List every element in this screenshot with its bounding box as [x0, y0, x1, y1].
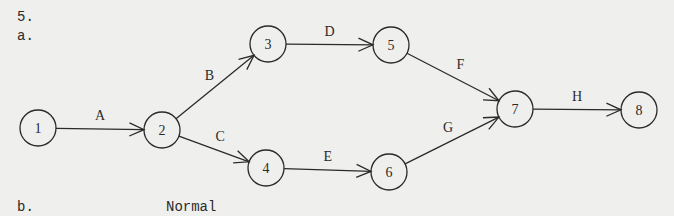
edge-line	[179, 136, 249, 162]
node-6: 6	[371, 154, 407, 190]
node-label: 7	[512, 102, 519, 117]
node-label: 4	[263, 161, 270, 176]
nodes-layer: 12345678	[20, 26, 657, 190]
node-8: 8	[621, 92, 657, 128]
activity-network-diagram: ABCDEFGH 12345678	[0, 0, 674, 216]
node-label: 2	[159, 123, 166, 138]
edge-line	[56, 128, 144, 129]
node-label: 6	[386, 165, 393, 180]
node-label: 1	[35, 121, 42, 136]
activity-label: A	[95, 108, 106, 123]
edge-line	[286, 44, 373, 45]
node-7: 7	[497, 91, 533, 127]
node-3: 3	[250, 26, 286, 62]
node-1: 1	[20, 110, 56, 146]
activity-label: H	[572, 89, 582, 104]
edge-f: F	[407, 53, 499, 100]
edge-h: H	[533, 89, 621, 117]
edge-line	[407, 53, 499, 100]
activity-label: E	[324, 149, 333, 164]
edge-c: C	[179, 129, 249, 163]
node-label: 5	[388, 38, 395, 53]
activity-label: G	[443, 120, 453, 135]
activity-label: B	[205, 68, 214, 83]
edge-line	[284, 169, 371, 172]
edge-b: B	[176, 55, 254, 118]
activity-label: F	[457, 57, 465, 72]
edge-g: G	[405, 117, 499, 164]
edge-line	[533, 109, 621, 110]
edge-d: D	[286, 24, 373, 52]
activity-label: C	[215, 129, 224, 144]
node-5: 5	[373, 27, 409, 63]
edge-e: E	[284, 149, 371, 177]
edges-layer: ABCDEFGH	[56, 24, 621, 178]
node-4: 4	[248, 150, 284, 186]
edge-line	[176, 55, 254, 118]
activity-label: D	[325, 24, 335, 39]
edge-a: A	[56, 108, 144, 136]
node-2: 2	[144, 112, 180, 148]
node-label: 8	[636, 103, 643, 118]
node-label: 3	[265, 37, 272, 52]
